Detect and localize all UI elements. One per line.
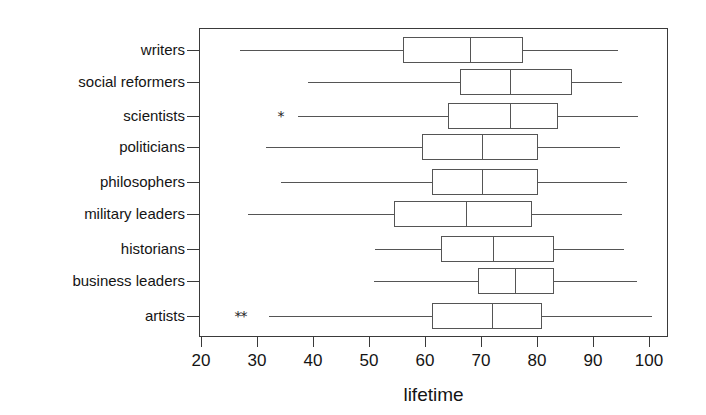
whisker-high [538, 182, 627, 183]
iqr-box [394, 201, 532, 227]
whisker-low [266, 147, 422, 148]
y-axis-tick [187, 50, 199, 51]
median-line [466, 201, 467, 227]
y-axis-tick [187, 249, 199, 250]
whisker-low [298, 116, 448, 117]
outlier-marker: * [275, 111, 287, 121]
y-axis-label-military-leaders: military leaders [84, 206, 185, 221]
median-line [482, 169, 483, 195]
iqr-box [448, 103, 558, 129]
x-axis-tick [313, 337, 314, 347]
x-axis-ticklabel-100: 100 [619, 352, 679, 369]
boxplot-figure: writerssocial reformersscientistspolitic… [0, 0, 706, 415]
median-line [510, 103, 511, 129]
x-axis-ticklabel-30: 30 [227, 352, 287, 369]
whisker-high [542, 316, 652, 317]
y-axis-label-historians: historians [121, 241, 185, 256]
whisker-high [554, 281, 637, 282]
whisker-high [523, 50, 618, 51]
x-axis-tick [257, 337, 258, 347]
y-axis-tick [187, 116, 199, 117]
y-axis-tick [187, 147, 199, 148]
iqr-box [422, 134, 538, 160]
x-axis-ticklabel-90: 90 [563, 352, 623, 369]
whisker-low [240, 50, 403, 51]
median-line [492, 303, 493, 329]
whisker-low [374, 281, 478, 282]
x-axis-ticklabel-40: 40 [283, 352, 343, 369]
y-axis-tick [187, 182, 199, 183]
y-axis-tick [187, 214, 199, 215]
whisker-high [554, 249, 624, 250]
whisker-low [375, 249, 441, 250]
whisker-low [248, 214, 394, 215]
x-axis-ticklabel-80: 80 [507, 352, 567, 369]
iqr-box [441, 236, 554, 262]
x-axis-tick [649, 337, 650, 347]
x-axis-ticklabel-50: 50 [339, 352, 399, 369]
x-axis-tick [593, 337, 594, 347]
y-axis-label-philosophers: philosophers [100, 174, 185, 189]
whisker-high [572, 82, 622, 83]
whisker-high [538, 147, 620, 148]
outlier-marker: * [238, 311, 250, 321]
whisker-low [308, 82, 460, 83]
median-line [482, 134, 483, 160]
y-axis-tick [187, 82, 199, 83]
y-axis-tick [187, 281, 199, 282]
x-axis-tick [481, 337, 482, 347]
y-axis-label-scientists: scientists [123, 108, 185, 123]
x-axis-tick [369, 337, 370, 347]
whisker-low [281, 182, 432, 183]
iqr-box [403, 37, 523, 63]
x-axis-ticklabel-20: 20 [171, 352, 231, 369]
y-axis-label-social-reformers: social reformers [78, 74, 185, 89]
whisker-high [532, 214, 622, 215]
iqr-box [460, 69, 572, 95]
iqr-box [432, 303, 542, 329]
y-axis-label-politicians: politicians [119, 139, 185, 154]
x-axis-tick [537, 337, 538, 347]
x-axis-tick [201, 337, 202, 347]
median-line [510, 69, 511, 95]
x-axis-ticklabel-70: 70 [451, 352, 511, 369]
whisker-low [269, 316, 433, 317]
y-axis-label-writers: writers [141, 42, 185, 57]
median-line [515, 268, 516, 294]
x-axis-title: lifetime [199, 385, 668, 404]
y-axis-label-business-leaders: business leaders [72, 273, 185, 288]
x-axis-ticklabel-60: 60 [395, 352, 455, 369]
y-axis-tick [187, 316, 199, 317]
whisker-high [558, 116, 638, 117]
x-axis-tick [425, 337, 426, 347]
y-axis-label-artists: artists [145, 308, 185, 323]
iqr-box [432, 169, 538, 195]
median-line [470, 37, 471, 63]
median-line [493, 236, 494, 262]
